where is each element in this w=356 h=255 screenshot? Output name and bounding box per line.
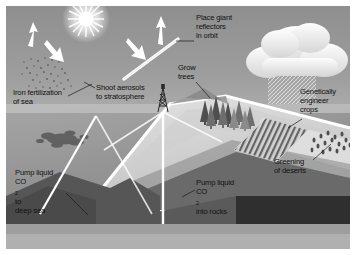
label-line: of sea [13, 97, 62, 106]
label-iron-fertilization: Iron fertilization of sea [13, 88, 62, 106]
label-line: Iron fertilization [13, 88, 62, 97]
geoengineering-illustration [0, 0, 356, 255]
label-line: reflectors [196, 22, 232, 31]
label-line: crops [300, 105, 336, 114]
label-line: in orbit [196, 31, 232, 40]
figure-canvas: Iron fertilization of sea Shoot aerosols… [0, 0, 356, 255]
label-greening-of-deserts: Greening of deserts [274, 157, 306, 175]
label-line: CO2 to [15, 177, 53, 206]
label-co2-subscript: 2 [196, 200, 199, 206]
label-line: deep sea [15, 206, 53, 215]
label-line: Genetically [300, 87, 336, 96]
label-co2-suffix: into rocks [196, 207, 234, 216]
label-place-reflectors: Place giant reflectors in orbit [196, 13, 232, 41]
label-line: of deserts [274, 166, 306, 175]
label-line: to stratosphere [96, 92, 145, 101]
label-grow-trees: Grow trees [178, 63, 196, 81]
label-shoot-aerosols: Shoot aerosols to stratosphere [96, 83, 145, 101]
label-pump-co2-deep-sea: Pump liquid CO2 to deep sea [15, 168, 53, 215]
label-line: engineer [300, 96, 336, 105]
label-genetically-engineer-crops: Genetically engineer crops [300, 87, 336, 115]
label-line: trees [178, 72, 196, 81]
label-line: Place giant [196, 13, 232, 22]
label-line: Greening [274, 157, 306, 166]
label-line: CO2 into rocks [196, 187, 234, 216]
label-line: Grow [178, 63, 196, 72]
label-co2-subscript: 2 [15, 190, 18, 196]
label-pump-co2-into-rocks: Pump liquid CO2 into rocks [196, 178, 234, 216]
label-line: Shoot aerosols [96, 83, 145, 92]
label-line: Pump liquid [15, 168, 53, 177]
label-co2-prefix: CO [15, 177, 53, 186]
label-co2-suffix: to [15, 197, 53, 206]
label-line: Pump liquid [196, 178, 234, 187]
label-co2-prefix: CO [196, 187, 234, 196]
